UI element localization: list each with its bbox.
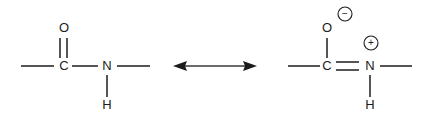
right-carbon-label: C: [322, 58, 331, 73]
resonance-diagram-canvas: O C N H O C N: [0, 0, 430, 122]
right-hydrogen-label: H: [365, 97, 374, 112]
right-oxygen-label: O: [322, 20, 332, 35]
right-structure: O C N H − +: [0, 0, 430, 122]
nitrogen-positive-charge-sign: +: [368, 37, 374, 48]
oxygen-negative-charge-sign: −: [342, 8, 348, 19]
right-nitrogen-label: N: [365, 58, 374, 73]
